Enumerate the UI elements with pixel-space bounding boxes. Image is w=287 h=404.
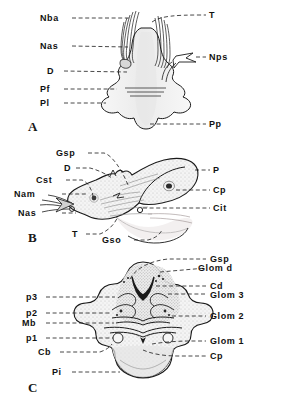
panel-c-drawing: [46, 259, 213, 378]
label-c-p1: p1: [26, 333, 38, 343]
label-b-cit: Cit: [213, 203, 227, 213]
label-a-pp: Pp: [209, 119, 222, 129]
label-c-cb: Cb: [38, 347, 51, 357]
label-c-glom-2: Glom 2: [210, 311, 244, 321]
label-b-p: P: [213, 165, 220, 175]
label-a-nas: Nas: [40, 41, 58, 51]
panel-letter-b: B: [28, 231, 37, 244]
label-a-nba: Nba: [40, 13, 59, 23]
label-b-d: D: [64, 163, 71, 173]
label-a-t: T: [209, 10, 215, 20]
label-c-p3: p3: [26, 292, 38, 302]
label-a-pf: Pf: [40, 84, 50, 94]
label-c-mb: Mb: [22, 318, 36, 328]
label-c-glom-1: Glom 1: [210, 336, 244, 346]
label-b-cp: Cp: [213, 185, 226, 195]
label-a-d: D: [47, 66, 54, 76]
label-c-glom-d: Glom d: [198, 263, 233, 273]
panel-a-drawing: [64, 11, 206, 129]
label-b-nam: Nam: [14, 189, 35, 199]
panel-letter-c: C: [28, 381, 37, 394]
label-c-p2: p2: [26, 308, 38, 318]
label-c-cp: Cp: [210, 351, 223, 361]
label-b-t: T: [72, 229, 78, 239]
label-a-nps: Nps: [209, 52, 228, 62]
figure-page: Nba Nas D Pf Pl T Nps Pp A Gsp D Cst Nam…: [0, 0, 287, 404]
label-b-gso: Gso: [102, 235, 121, 245]
label-b-nas: Nas: [18, 208, 36, 218]
label-c-pi: Pi: [52, 367, 62, 377]
label-a-pl: Pl: [40, 98, 50, 108]
panel-letter-a: A: [28, 120, 37, 133]
label-b-gsp: Gsp: [56, 148, 75, 158]
label-c-glom-3: Glom 3: [210, 290, 244, 300]
label-b-cst: Cst: [36, 175, 52, 185]
